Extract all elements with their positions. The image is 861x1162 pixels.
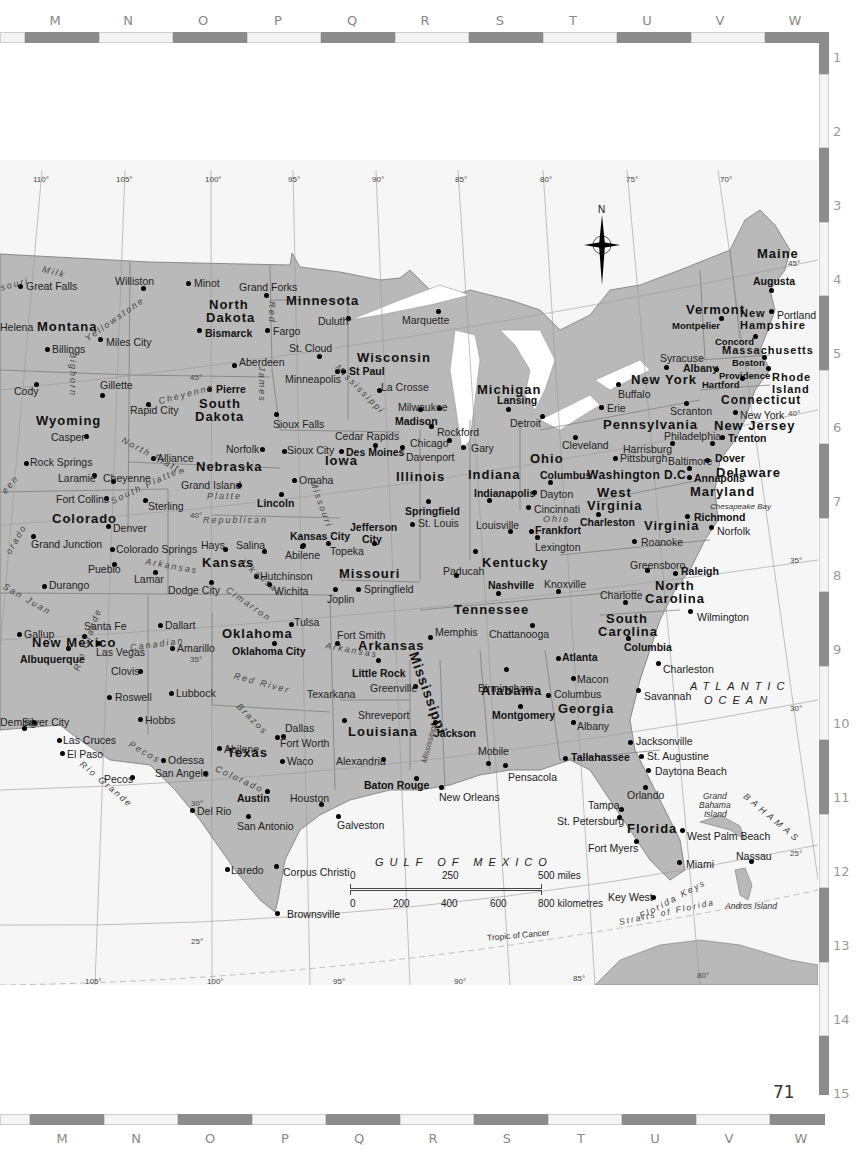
state-label[interactable]: Georgia — [558, 702, 614, 715]
city-label[interactable]: Grand Forks — [239, 282, 297, 293]
city-label[interactable]: Wilmington — [697, 612, 749, 623]
city-label[interactable]: Jacksonville — [636, 736, 693, 747]
state-label[interactable]: Wyoming — [36, 414, 101, 427]
city-label[interactable]: Chattanooga — [489, 629, 549, 640]
capital-label[interactable]: Montpelier — [672, 321, 720, 331]
city-label[interactable]: Colorado Springs — [116, 544, 197, 555]
city-label[interactable]: La Crosse — [381, 382, 429, 393]
city-label[interactable]: Sioux Falls — [273, 419, 324, 430]
state-label[interactable]: Ohio — [530, 452, 564, 465]
city-label[interactable]: Hays — [201, 540, 225, 551]
capital-label[interactable]: Oklahoma City — [232, 646, 306, 657]
city-label[interactable]: Rapid City — [130, 405, 178, 416]
city-label[interactable]: Lexington — [535, 542, 581, 553]
city-label[interactable]: Charlotte — [600, 590, 643, 601]
state-label[interactable]: Vermont — [686, 303, 745, 316]
city-label[interactable]: Marquette — [402, 315, 449, 326]
city-label[interactable]: Galveston — [337, 820, 384, 831]
state-label[interactable]: Minnesota — [286, 294, 359, 307]
capital-label[interactable]: Bismarck — [205, 328, 252, 339]
city-label[interactable]: Pueblo — [88, 564, 121, 575]
city-label[interactable]: Memphis — [435, 627, 478, 638]
capital-label[interactable]: Lansing — [497, 395, 537, 406]
capital-label[interactable]: Tallahassee — [571, 752, 630, 763]
state-label[interactable]: Oklahoma — [222, 627, 293, 640]
capital-label[interactable]: Boston — [732, 358, 765, 368]
city-label[interactable]: Fort Collins — [56, 494, 109, 505]
city-label[interactable]: Texarkana — [307, 689, 355, 700]
city-label[interactable]: Abilene — [224, 744, 259, 755]
capital-label[interactable]: Springfield — [405, 506, 460, 517]
city-label[interactable]: Milwaukee — [398, 402, 448, 413]
city-label[interactable]: Paducah — [443, 566, 484, 577]
city-label[interactable]: Fort Worth — [280, 738, 329, 749]
city-label[interactable]: San Antonio — [237, 821, 294, 832]
city-label[interactable]: Lubbock — [176, 688, 216, 699]
city-label[interactable]: Dayton — [540, 489, 573, 500]
city-label[interactable]: Clovis — [111, 666, 140, 677]
city-label[interactable]: Roanoke — [641, 537, 683, 548]
capital-label[interactable]: Dover — [715, 453, 745, 464]
state-label[interactable]: Dakota — [206, 311, 255, 324]
capital-label[interactable]: Austin — [237, 793, 270, 804]
capital-label[interactable]: Augusta — [753, 276, 795, 287]
state-label[interactable]: Hampshire — [740, 320, 806, 331]
city-label[interactable]: Laredo — [231, 865, 264, 876]
state-label[interactable]: Nebraska — [196, 460, 263, 473]
capital-label[interactable]: Indianapolis — [474, 488, 535, 499]
city-label[interactable]: Great Falls — [26, 281, 77, 292]
city-label[interactable]: Philadelphia — [664, 431, 721, 442]
city-label[interactable]: Charleston — [663, 664, 714, 675]
city-label[interactable]: St. Cloud — [289, 343, 332, 354]
city-label[interactable]: Houston — [290, 793, 329, 804]
capital-label[interactable]: Little Rock — [352, 668, 406, 679]
city-label[interactable]: Detroit — [510, 418, 541, 429]
state-label[interactable]: Virginia — [644, 519, 699, 532]
capital-label[interactable]: Frankfort — [535, 525, 581, 536]
city-label[interactable]: Del Rio — [197, 806, 231, 817]
state-label[interactable]: New — [740, 308, 766, 319]
capital-label[interactable]: Richmond — [694, 512, 745, 523]
city-label[interactable]: Tampa — [588, 800, 620, 811]
capital-label[interactable]: Jackson — [434, 728, 476, 739]
city-label[interactable]: Gallup — [24, 629, 54, 640]
city-label[interactable]: Brownsville — [287, 909, 340, 920]
capital-label[interactable]: Pierre — [216, 384, 246, 395]
city-label[interactable]: Minot — [194, 278, 220, 289]
capital-label[interactable]: Columbia — [624, 642, 672, 653]
state-label[interactable]: Wisconsin — [357, 351, 431, 364]
city-label[interactable]: Topeka — [330, 546, 364, 557]
city-label[interactable]: Minneapolis — [285, 374, 341, 385]
city-label[interactable]: Las Cruces — [63, 735, 116, 746]
city-label[interactable]: Miami — [686, 859, 714, 870]
city-label[interactable]: Erie — [607, 403, 626, 414]
state-label[interactable]: Kentucky — [482, 556, 549, 569]
city-label[interactable]: Buffalo — [618, 389, 651, 400]
state-label[interactable]: Maryland — [690, 485, 755, 498]
state-label[interactable]: New Jersey — [714, 419, 796, 432]
capital-label[interactable]: Atlanta — [562, 652, 598, 663]
city-label[interactable]: Casper — [51, 432, 85, 443]
city-label[interactable]: San Angelo — [155, 768, 209, 779]
city-label[interactable]: Salina — [236, 540, 265, 551]
city-label[interactable]: Grand Junction — [31, 539, 102, 550]
city-label[interactable]: Chicago — [410, 438, 449, 449]
state-label[interactable]: Massachusetts — [722, 345, 814, 356]
city-label[interactable]: Waco — [287, 756, 313, 767]
city-label[interactable]: Grand Island — [181, 480, 241, 491]
capital-label[interactable]: Annapolis — [694, 473, 745, 484]
city-label[interactable]: Corpus Christi — [283, 867, 350, 878]
city-label[interactable]: Rock Springs — [30, 457, 92, 468]
state-label[interactable]: Maine — [757, 247, 799, 260]
city-label[interactable]: Gary — [471, 443, 494, 454]
capital-label[interactable]: St Paul — [349, 366, 385, 377]
city-label[interactable]: Joplin — [327, 594, 354, 605]
city-label[interactable]: Sterling — [148, 501, 184, 512]
city-label[interactable]: St. Augustine — [647, 751, 709, 762]
state-label[interactable]: Carolina — [645, 592, 705, 605]
city-label[interactable]: Louisville — [476, 520, 519, 531]
state-label[interactable]: New York — [631, 373, 697, 386]
state-label[interactable]: Florida — [627, 822, 677, 835]
city-label[interactable]: Shreveport — [358, 710, 409, 721]
city-label[interactable]: Greenville — [370, 683, 417, 694]
